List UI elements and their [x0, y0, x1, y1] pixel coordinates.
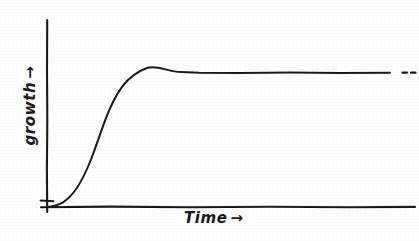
x-axis-line — [41, 207, 415, 208]
y-axis-label: growth→ — [23, 54, 38, 158]
y-axis-arrow-icon: → — [23, 66, 38, 79]
y-axis-label-text: growth — [21, 82, 39, 146]
origin-tick-mark — [41, 201, 54, 202]
x-axis-label-text: Time — [184, 209, 228, 227]
growth-curve — [48, 67, 391, 207]
x-axis-label: Time→ — [184, 211, 244, 226]
sketch-figure: Time→ growth→ — [0, 0, 419, 241]
x-axis-arrow-icon: → — [231, 211, 244, 226]
sketch-canvas — [0, 0, 419, 241]
